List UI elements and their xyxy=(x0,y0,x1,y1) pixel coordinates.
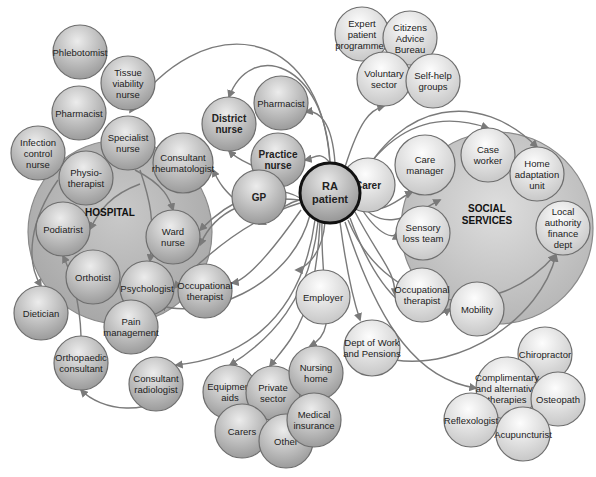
center-layer: RApatient xyxy=(300,163,360,223)
node-medical[interactable]: Medicalinsurance xyxy=(287,393,341,447)
node-label: aids xyxy=(221,392,239,403)
node-label: Orthotist xyxy=(75,272,111,283)
node-label: Physio- xyxy=(70,167,102,178)
node-label: Pharmacist xyxy=(257,98,305,109)
node-dwp[interactable]: Dept of Workand Pensions xyxy=(343,320,401,376)
node-podiatrist[interactable]: Podiatrist xyxy=(36,202,90,256)
node-ra-patient[interactable]: RApatient xyxy=(300,163,360,223)
node-label: therapist xyxy=(404,295,441,306)
node-label: manager xyxy=(406,165,444,176)
node-label: Mobility xyxy=(461,304,493,315)
node-home-adapt[interactable]: Homeadaptationunit xyxy=(510,147,564,201)
node-label: dept xyxy=(554,239,573,250)
node-label: Care xyxy=(415,154,436,165)
node-label: Voluntary xyxy=(364,68,404,79)
connector-arrow xyxy=(355,212,395,295)
node-label: nurse xyxy=(116,143,140,154)
node-label: Pain xyxy=(121,316,140,327)
node-label: Dept of Work xyxy=(344,337,400,348)
node-label: Private xyxy=(258,382,288,393)
node-ortho-consult[interactable]: Orthopaedicconsultant xyxy=(54,336,108,390)
node-label: Employer xyxy=(303,292,343,303)
node-label: Complimentary xyxy=(475,372,539,383)
node-occ-ther-s[interactable]: Occupationaltherapist xyxy=(394,268,449,322)
node-label: Reflexologist xyxy=(444,415,499,426)
node-local-auth[interactable]: Localauthorityfinancedept xyxy=(536,201,590,255)
node-label: Home xyxy=(524,158,549,169)
node-label: therapist xyxy=(68,178,105,189)
node-label: nurse xyxy=(161,237,185,248)
node-label: nurse xyxy=(264,160,292,171)
node-label: nurse xyxy=(26,159,50,170)
node-label: viability xyxy=(112,78,143,89)
node-reflexologist[interactable]: Reflexologist xyxy=(444,393,499,447)
node-pharmacist-c[interactable]: Pharmacist xyxy=(254,76,308,130)
node-label: Consultant xyxy=(160,152,206,163)
node-dietician[interactable]: Dietician xyxy=(14,286,68,340)
node-label: GP xyxy=(252,192,267,203)
node-label: Osteopath xyxy=(536,394,580,405)
node-nursing[interactable]: Nursinghome xyxy=(289,346,343,400)
group-label-hospital: HOSPITAL xyxy=(85,207,135,218)
node-selfhelp[interactable]: Self-helpgroups xyxy=(406,54,460,108)
node-orthotist[interactable]: Orthotist xyxy=(66,250,120,304)
node-label: therapies xyxy=(487,394,526,405)
node-employer[interactable]: Employer xyxy=(296,270,350,324)
node-label: Pharmacist xyxy=(55,108,103,119)
node-label: and alternative xyxy=(476,383,538,394)
node-label: Specialist xyxy=(108,132,149,143)
node-label: Dietician xyxy=(23,308,59,319)
node-label: Sensory xyxy=(406,222,441,233)
node-phlebotomist[interactable]: Phlebotomist xyxy=(53,25,108,79)
node-label: Carers xyxy=(228,426,257,437)
node-tissue[interactable]: Tissueviabilitynurse xyxy=(101,56,155,110)
node-label: insurance xyxy=(293,420,334,431)
node-label: Case xyxy=(477,144,499,155)
node-label: District xyxy=(212,113,247,124)
node-label: Infection xyxy=(20,137,56,148)
node-label: Expert xyxy=(348,18,376,29)
node-label: nurse xyxy=(215,124,243,135)
node-specialist[interactable]: Specialistnurse xyxy=(101,116,155,170)
node-mobility[interactable]: Mobility xyxy=(450,282,504,336)
node-pharmacist-h[interactable]: Pharmacist xyxy=(52,86,106,140)
node-label: home xyxy=(304,373,328,384)
node-consult-radio[interactable]: Consultantradiologist xyxy=(129,357,183,411)
node-label: Nursing xyxy=(300,362,333,373)
center-label: patient xyxy=(312,193,348,205)
node-label: patient xyxy=(348,29,377,40)
node-sensory[interactable]: Sensoryloss team xyxy=(396,206,450,260)
node-label: unit xyxy=(529,180,545,191)
node-label: Bureau xyxy=(395,44,426,55)
node-physio[interactable]: Physio-therapist xyxy=(59,151,113,205)
group-label-social: SERVICES xyxy=(462,215,513,226)
node-gp[interactable]: GP xyxy=(232,170,286,224)
group-label-social: SOCIAL xyxy=(468,203,506,214)
node-label: authority xyxy=(545,217,582,228)
node-label: Consultant xyxy=(133,373,179,384)
node-label: and Pensions xyxy=(343,348,401,359)
node-district[interactable]: Districtnurse xyxy=(202,97,256,151)
node-label: Medical xyxy=(298,409,331,420)
node-label: Occupational xyxy=(177,280,232,291)
node-label: control xyxy=(24,148,53,159)
node-label: Advice xyxy=(396,33,425,44)
node-label: nurse xyxy=(116,89,140,100)
node-label: Citizens xyxy=(393,22,427,33)
node-label: Psychologist xyxy=(120,283,174,294)
node-pain[interactable]: Painmanagement xyxy=(103,300,159,354)
node-label: management xyxy=(103,327,159,338)
node-label: rheumatologist xyxy=(152,163,215,174)
node-ward-nurse[interactable]: Wardnurse xyxy=(146,210,200,264)
node-voluntary[interactable]: Voluntarysector xyxy=(357,52,411,106)
node-label: worker xyxy=(473,155,503,166)
node-case-worker[interactable]: Caseworker xyxy=(461,128,515,182)
node-infection[interactable]: Infectioncontrolnurse xyxy=(11,126,65,180)
node-occ-ther-h[interactable]: Occupationaltherapist xyxy=(177,264,232,318)
node-consultant-rheum[interactable]: Consultantrheumatologist xyxy=(152,133,215,193)
node-label: finance xyxy=(548,228,579,239)
node-label: Chiropractor xyxy=(519,349,571,360)
node-label: Orthopaedic xyxy=(55,352,107,363)
node-care-manager[interactable]: Caremanager xyxy=(395,135,455,195)
node-label: Practice xyxy=(259,149,298,160)
